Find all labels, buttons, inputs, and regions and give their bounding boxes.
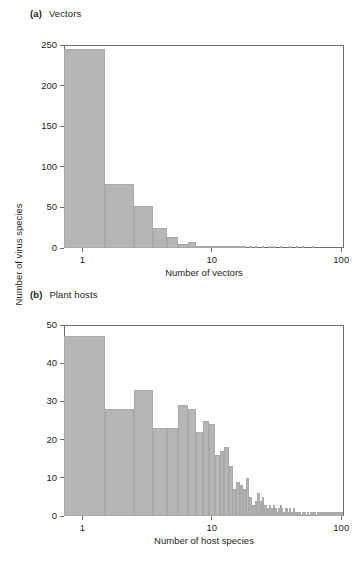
y-tick-mark bbox=[60, 166, 64, 167]
x-tick-label: 1 bbox=[80, 254, 85, 266]
y-tick-label: 10 bbox=[46, 471, 57, 484]
y-tick-mark bbox=[60, 477, 64, 478]
x-tick-mark bbox=[341, 516, 342, 520]
y-tick-mark bbox=[60, 439, 64, 440]
bar bbox=[167, 237, 178, 248]
bar bbox=[304, 512, 306, 516]
x-axis-label-b: Number of host species bbox=[64, 535, 344, 546]
y-tick-label: 250 bbox=[41, 38, 57, 51]
bar bbox=[307, 512, 309, 516]
bar bbox=[196, 246, 203, 248]
bar bbox=[312, 246, 314, 248]
panel-a-tag: (a) bbox=[30, 8, 42, 19]
bar bbox=[196, 432, 203, 516]
bar bbox=[273, 246, 275, 248]
bar bbox=[167, 428, 178, 516]
y-tick-mark bbox=[60, 45, 64, 46]
y-tick-label: 40 bbox=[46, 356, 57, 369]
bar bbox=[280, 246, 282, 248]
x-tick-label: 100 bbox=[333, 522, 349, 534]
bar bbox=[105, 409, 134, 516]
bar bbox=[178, 405, 187, 516]
y-tick-mark bbox=[60, 401, 64, 402]
bar-series-vectors bbox=[64, 45, 344, 248]
y-tick-mark bbox=[60, 516, 64, 517]
bar bbox=[262, 246, 264, 248]
bar bbox=[188, 242, 196, 248]
x-tick-mark bbox=[211, 248, 212, 252]
figure-root: Number of virus species (a)Vectors 05010… bbox=[0, 0, 363, 566]
x-tick-mark bbox=[82, 248, 83, 252]
bar bbox=[178, 244, 187, 248]
y-tick-mark bbox=[60, 325, 64, 326]
bar bbox=[188, 409, 196, 516]
bar bbox=[153, 228, 167, 248]
bar-series-plant-hosts bbox=[64, 325, 344, 516]
y-tick-label: 200 bbox=[41, 79, 57, 92]
bar bbox=[64, 336, 105, 516]
y-tick-label: 150 bbox=[41, 119, 57, 132]
panel-b-title: (b)Plant hosts bbox=[30, 289, 98, 300]
y-tick-label: 100 bbox=[41, 160, 57, 173]
x-tick-label: 1 bbox=[80, 522, 85, 534]
bar bbox=[243, 246, 246, 248]
y-tick-label: 0 bbox=[52, 241, 57, 254]
panel-b-tag: (b) bbox=[30, 289, 42, 300]
bar bbox=[134, 390, 153, 516]
bar bbox=[153, 428, 167, 516]
bar bbox=[289, 246, 291, 248]
y-tick-mark bbox=[60, 85, 64, 86]
panel-a-title-text: Vectors bbox=[49, 8, 81, 19]
bar bbox=[302, 246, 304, 248]
x-tick-mark bbox=[211, 516, 212, 520]
x-tick-label: 10 bbox=[207, 522, 218, 534]
bar bbox=[296, 246, 298, 248]
bar bbox=[105, 184, 134, 248]
panel-a-title: (a)Vectors bbox=[30, 8, 81, 19]
bar bbox=[134, 206, 153, 248]
y-tick-label: 20 bbox=[46, 433, 57, 446]
x-tick-label: 10 bbox=[207, 254, 218, 266]
y-tick-label: 0 bbox=[52, 509, 57, 522]
x-tick-mark bbox=[82, 516, 83, 520]
x-tick-mark bbox=[341, 248, 342, 252]
bar bbox=[269, 246, 271, 248]
y-tick-label: 50 bbox=[46, 200, 57, 213]
bar bbox=[64, 49, 105, 248]
y-tick-mark bbox=[60, 207, 64, 208]
y-tick-mark bbox=[60, 363, 64, 364]
y-tick-label: 30 bbox=[46, 394, 57, 407]
bar bbox=[255, 246, 258, 248]
panel-b-title-text: Plant hosts bbox=[49, 289, 97, 300]
y-tick-label: 50 bbox=[46, 318, 57, 331]
chart-panel-vectors: 050100150200250 110100 Number of vectors bbox=[64, 45, 344, 248]
bar bbox=[249, 246, 252, 248]
y-tick-mark bbox=[60, 126, 64, 127]
x-axis-label-a: Number of vectors bbox=[64, 267, 344, 278]
chart-panel-plant-hosts: 01020304050 110100 Number of host specie… bbox=[64, 325, 344, 516]
x-tick-label: 100 bbox=[333, 254, 349, 266]
shared-y-axis-label: Number of virus species bbox=[13, 180, 24, 330]
y-tick-mark bbox=[60, 248, 64, 249]
